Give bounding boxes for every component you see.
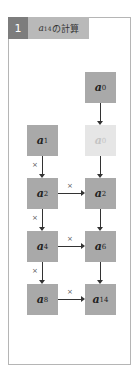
box-a0-faded: a0 [85,125,116,156]
arrow-down [42,209,43,227]
arrowhead-icon [39,227,45,231]
arrowhead-icon [39,280,45,284]
multiply-label: × [67,288,73,296]
arrowhead-icon [81,190,85,196]
arrow-down [100,103,101,121]
box-a6: a6 [85,231,116,262]
multiply-label: × [67,182,73,190]
box-a1: a1 [27,125,58,156]
section-header: 1 a14の計算 [8,17,89,39]
section-number: 1 [8,17,28,39]
arrow-down [100,262,101,280]
arrow-right [58,193,81,194]
arrowhead-icon [97,280,103,284]
box-a14: a14 [85,284,116,315]
arrow-down [100,156,101,174]
arrow-down [42,262,43,280]
arrow-down [42,156,43,174]
arrow-right [58,299,81,300]
box-a8: a8 [27,284,58,315]
multiply-label: × [32,161,38,169]
arrowhead-icon [97,174,103,178]
section-title: a14の計算 [28,17,89,39]
multiply-label: × [32,267,38,275]
box-a2-left: a2 [27,178,58,209]
arrow-down [100,209,101,227]
box-a2-right: a2 [85,178,116,209]
arrowhead-icon [97,227,103,231]
arrow-right [58,246,81,247]
multiply-label: × [67,235,73,243]
arrowhead-icon [81,296,85,302]
arrowhead-icon [81,243,85,249]
arrowhead-icon [39,174,45,178]
box-a4: a4 [27,231,58,262]
multiply-label: × [32,214,38,222]
box-a0-initial: a0 [85,72,116,103]
